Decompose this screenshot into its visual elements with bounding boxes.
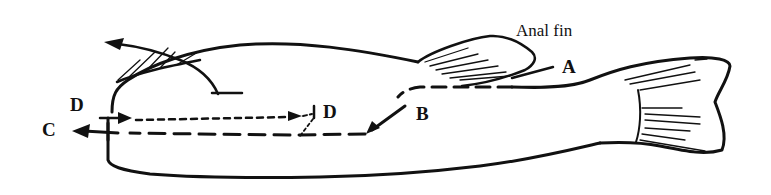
label-a: A	[562, 57, 576, 76]
label-b: B	[416, 104, 429, 123]
label-d-left: D	[70, 95, 84, 114]
fish-dissection-diagram: Anal fin A B C D D	[0, 0, 771, 195]
label-d-right: D	[323, 102, 337, 121]
label-c: C	[42, 120, 56, 139]
fish-outline-drawing	[0, 0, 771, 195]
anal-fin-label: Anal fin	[516, 22, 572, 39]
